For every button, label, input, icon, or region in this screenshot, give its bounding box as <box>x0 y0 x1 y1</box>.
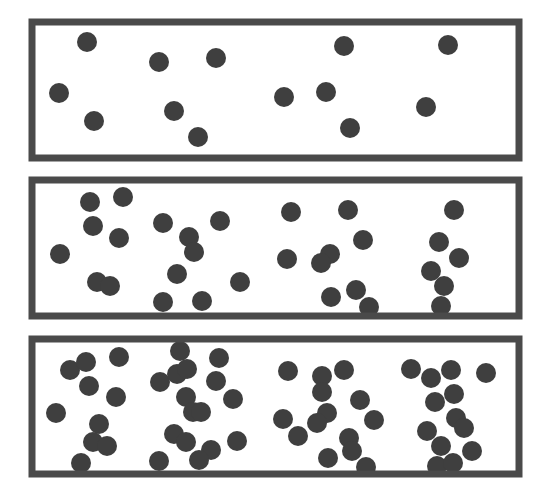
particle <box>188 127 208 147</box>
particle <box>334 360 354 380</box>
particle <box>425 392 445 412</box>
particle <box>164 101 184 121</box>
particle <box>340 118 360 138</box>
particle <box>350 390 370 410</box>
particle <box>444 384 464 404</box>
particle <box>84 111 104 131</box>
particle <box>318 448 338 468</box>
particle <box>274 87 294 107</box>
particle <box>150 372 170 392</box>
particle <box>338 200 358 220</box>
particle <box>444 200 464 220</box>
particle <box>46 403 66 423</box>
particle <box>106 387 126 407</box>
particle <box>184 242 204 262</box>
particle <box>441 360 461 380</box>
particle <box>346 280 366 300</box>
particle <box>401 359 421 379</box>
particle <box>421 368 441 388</box>
particle <box>167 264 187 284</box>
particle <box>100 276 120 296</box>
particle <box>97 436 117 456</box>
particle <box>476 363 496 383</box>
particle <box>443 453 463 473</box>
particle <box>113 187 133 207</box>
particle-diagram <box>0 0 544 495</box>
particle <box>342 441 362 461</box>
particle <box>316 82 336 102</box>
particle <box>434 276 454 296</box>
particle <box>170 341 190 361</box>
container-medium-concentration <box>32 180 519 317</box>
particle <box>191 402 211 422</box>
particle <box>416 97 436 117</box>
particle <box>83 216 103 236</box>
particle <box>353 230 373 250</box>
particle <box>209 348 229 368</box>
particle <box>206 371 226 391</box>
particle <box>223 389 243 409</box>
particle <box>273 409 293 429</box>
particle <box>206 48 226 68</box>
particle <box>50 244 70 264</box>
particle <box>288 426 308 446</box>
particle <box>210 211 230 231</box>
particle <box>431 436 451 456</box>
particle <box>312 382 332 402</box>
particle <box>449 248 469 268</box>
particle <box>278 361 298 381</box>
container-high-concentration <box>32 339 519 477</box>
particle <box>176 432 196 452</box>
particle <box>334 36 354 56</box>
particle <box>153 213 173 233</box>
particle <box>49 83 69 103</box>
particle <box>149 451 169 471</box>
particle <box>177 359 197 379</box>
particle <box>89 414 109 434</box>
particle <box>230 272 250 292</box>
particle <box>417 421 437 441</box>
particle <box>227 431 247 451</box>
particle <box>79 376 99 396</box>
particle <box>192 291 212 311</box>
particle <box>80 192 100 212</box>
particle <box>454 418 474 438</box>
particle <box>149 52 169 72</box>
particle <box>438 35 458 55</box>
particle <box>109 228 129 248</box>
particle <box>281 202 301 222</box>
container-low-concentration <box>32 22 519 158</box>
particle <box>321 287 341 307</box>
particle <box>77 32 97 52</box>
particle <box>76 352 96 372</box>
particle <box>153 292 173 312</box>
particle <box>429 232 449 252</box>
particle <box>364 410 384 430</box>
particle <box>189 450 209 470</box>
particle <box>307 413 327 433</box>
particle <box>462 441 482 461</box>
particle <box>277 249 297 269</box>
particle <box>71 453 91 473</box>
particle <box>311 253 331 273</box>
particle <box>109 347 129 367</box>
